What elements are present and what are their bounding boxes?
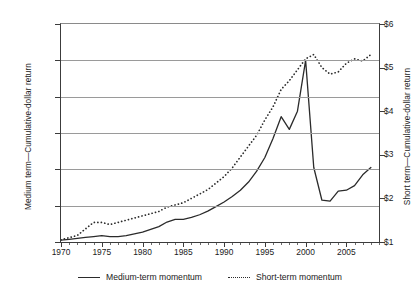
x-axis-minor-tick-mark [240,243,241,245]
x-axis-tick-label: 1975 [82,247,122,257]
x-axis-tick-label: 1990 [204,247,244,257]
y-axis-left-title: Medium term—Cumulative-dollar return [24,52,33,222]
legend-dotted-line-icon [228,277,250,278]
x-axis-minor-tick-mark [85,243,86,245]
y-axis-right-tick-mark [380,24,385,25]
x-axis-minor-tick-mark [314,243,315,245]
gridline [61,206,379,207]
x-axis-minor-tick-mark [297,243,298,245]
x-axis-tick-mark [61,243,62,247]
x-axis-minor-tick-mark [159,243,160,245]
legend-item-short-term-momentum: Short-term momentum [228,272,342,282]
x-axis-minor-tick-mark [134,243,135,245]
x-axis-minor-tick-mark [77,243,78,245]
x-axis-minor-tick-mark [118,243,119,245]
x-axis-minor-tick-mark [338,243,339,245]
x-axis-tick-mark [306,243,307,247]
legend-label: Short-term momentum [256,272,342,282]
y-axis-right-tick-mark [380,68,385,69]
y-axis-right-tick-label: $6 [384,19,414,29]
gridline [61,169,379,170]
x-axis-tick-label: 1980 [123,247,163,257]
x-axis-tick-label: 2005 [326,247,366,257]
x-axis-minor-tick-mark [249,243,250,245]
x-axis-minor-tick-mark [126,243,127,245]
series-line-medium-term-momentum [61,60,371,240]
x-axis-minor-tick-mark [208,243,209,245]
y-axis-right-tick-mark [380,111,385,112]
x-axis-minor-tick-mark [322,243,323,245]
y-axis-right-tick-mark [380,198,385,199]
x-axis-minor-tick-mark [363,243,364,245]
x-axis-minor-tick-mark [281,243,282,245]
x-axis-tick-mark [265,243,266,247]
series-line-short-term-momentum [61,55,371,240]
y-axis-right-tick-label: $4 [384,106,414,116]
x-axis-tick-label: 2000 [286,247,326,257]
gridline [61,97,379,98]
plot-area [60,23,380,243]
x-axis-minor-tick-mark [355,243,356,245]
x-axis-minor-tick-mark [371,243,372,245]
x-axis-tick-mark [143,243,144,247]
x-axis-minor-tick-mark [232,243,233,245]
x-axis-minor-tick-mark [151,243,152,245]
x-axis-minor-tick-mark [175,243,176,245]
chart-legend: Medium-term momentum Short-term momentum [0,272,420,282]
x-axis-tick-mark [102,243,103,247]
x-axis-minor-tick-mark [167,243,168,245]
y-axis-right-tick-label: $3 [384,149,414,159]
x-axis-minor-tick-mark [191,243,192,245]
legend-label: Medium-term momentum [106,272,202,282]
x-axis-minor-tick-mark [110,243,111,245]
x-axis-minor-tick-mark [330,243,331,245]
gridline [61,60,379,61]
x-axis-minor-tick-mark [289,243,290,245]
x-axis-minor-tick-mark [216,243,217,245]
y-axis-right-tick-label: $5 [384,62,414,72]
x-axis-minor-tick-mark [94,243,95,245]
x-axis-minor-tick-mark [379,243,380,245]
x-axis-tick-label: 1995 [245,247,285,257]
x-axis-tick-mark [346,243,347,247]
x-axis-minor-tick-mark [69,243,70,245]
chart-figure: Medium term—Cumulative-dollar return Sho… [0,0,420,297]
x-axis-tick-mark [183,243,184,247]
x-axis-minor-tick-mark [273,243,274,245]
y-axis-right-tick-mark [380,155,385,156]
y-axis-right-tick-label: $1 [384,237,414,247]
x-axis-tick-label: 1985 [163,247,203,257]
y-axis-right-tick-mark [380,242,385,243]
x-axis-tick-mark [224,243,225,247]
legend-solid-line-icon [78,277,100,278]
y-axis-right-tick-label: $2 [384,193,414,203]
gridline [61,133,379,134]
x-axis-minor-tick-mark [200,243,201,245]
x-axis-minor-tick-mark [257,243,258,245]
legend-item-medium-term-momentum: Medium-term momentum [78,272,202,282]
x-axis-tick-label: 1970 [41,247,81,257]
